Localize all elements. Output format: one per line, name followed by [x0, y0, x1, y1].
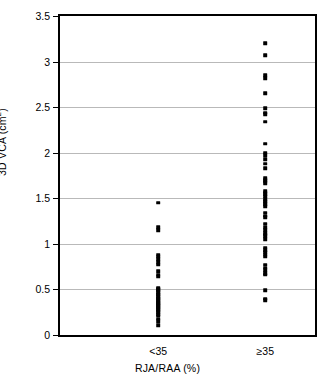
- data-point: [156, 323, 160, 327]
- data-point: [263, 142, 267, 146]
- data-point: [156, 263, 160, 267]
- x-axis-tick-label: ≥35: [235, 345, 295, 357]
- data-point: [263, 216, 267, 220]
- data-point: [263, 289, 267, 293]
- data-point: [263, 273, 267, 277]
- data-point: [263, 255, 267, 259]
- data-point: [263, 113, 267, 117]
- gridline: [60, 107, 315, 108]
- y-axis-tick-label: 3: [16, 57, 50, 67]
- data-point: [263, 238, 267, 242]
- x-axis-title: RJA/RAA (%): [0, 362, 335, 374]
- y-axis-tick-label: 0: [16, 330, 50, 340]
- y-axis-tick: [53, 244, 58, 245]
- data-point: [156, 275, 160, 279]
- data-point: [263, 299, 267, 303]
- data-point: [263, 182, 267, 186]
- y-axis-title: 3D VCA (cm2): [0, 0, 8, 176]
- data-point: [263, 92, 267, 96]
- gridline: [60, 62, 315, 63]
- data-point: [263, 162, 267, 166]
- data-point: [263, 157, 267, 161]
- data-point: [263, 120, 267, 124]
- y-axis-title-tail: ): [0, 108, 8, 112]
- data-point: [263, 166, 267, 170]
- data-point: [156, 201, 160, 205]
- y-axis-tick-label: 2: [16, 148, 50, 158]
- y-axis-tick-label: 1: [16, 239, 50, 249]
- gridline: [60, 198, 315, 199]
- data-point: [263, 53, 267, 57]
- data-point: [263, 106, 267, 110]
- y-axis-tick-label: 3.5: [16, 11, 50, 21]
- gridline: [60, 153, 315, 154]
- y-axis-tick: [53, 335, 58, 336]
- y-axis-tick-label: 2.5: [16, 102, 50, 112]
- y-axis-tick-label: 1.5: [16, 193, 50, 203]
- data-point: [263, 205, 267, 209]
- y-axis-tick: [53, 153, 58, 154]
- y-axis-title-text: 3D VCA (cm: [0, 116, 8, 176]
- y-axis-tick: [53, 198, 58, 199]
- data-point: [156, 228, 160, 232]
- y-axis-tick-label: 0.5: [16, 284, 50, 294]
- gridline: [60, 244, 315, 245]
- gridline: [60, 289, 315, 290]
- y-axis-tick: [53, 289, 58, 290]
- y-axis-tick: [53, 16, 58, 17]
- y-axis-tick: [53, 62, 58, 63]
- y-axis-tick: [53, 107, 58, 108]
- plot-area: [58, 14, 317, 337]
- chart-figure: 3D VCA (cm2) 00.511.522.533.5 <35≥35 RJA…: [0, 0, 335, 380]
- y-axis-title-superscript: 2: [0, 112, 3, 116]
- x-axis-tick-label: <35: [128, 345, 188, 357]
- data-point: [263, 76, 267, 80]
- data-point: [263, 42, 267, 46]
